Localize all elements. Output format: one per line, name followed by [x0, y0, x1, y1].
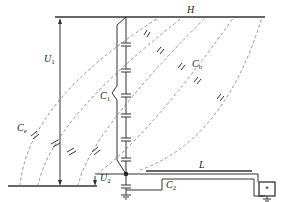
u1-arrow-bottom	[58, 180, 62, 186]
field-arc	[140, 17, 262, 170]
field-arc	[97, 17, 234, 174]
label-h: H	[186, 4, 195, 15]
insulator-outline	[112, 17, 126, 174]
meter-symbol: *	[265, 184, 269, 194]
u1-arrow-top	[58, 18, 62, 24]
label-l: L	[198, 159, 205, 170]
label-u1: U1	[44, 53, 55, 66]
meter-wire-top	[126, 174, 258, 182]
label-ce: Ce	[17, 122, 27, 135]
capacitive-coupling-diagram: H U1 C1 C2 U2 L *	[0, 0, 287, 202]
u2-arrow-bottom	[93, 180, 97, 186]
label-c2: C2	[166, 179, 177, 192]
c2-bracket	[126, 179, 162, 190]
meter-wire-bottom	[162, 179, 265, 196]
field-arc	[78, 17, 206, 186]
label-c1: C1	[100, 90, 111, 103]
label-cb: Cb	[192, 58, 203, 71]
field-arc	[20, 17, 160, 186]
